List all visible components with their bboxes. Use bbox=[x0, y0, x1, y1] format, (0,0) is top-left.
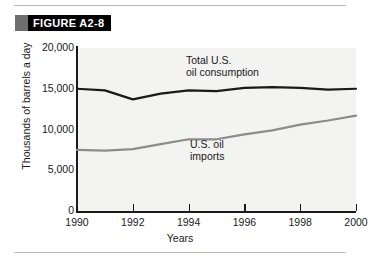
figure-number-label: FIGURE A2-8 bbox=[28, 15, 111, 31]
annotation-total-us-oil-consumption: Total U.S. oil consumption bbox=[186, 54, 259, 78]
series-lines bbox=[0, 38, 360, 238]
annotation-consumption-line1: Total U.S. bbox=[186, 54, 259, 66]
annotation-us-oil-imports: U.S. oil imports bbox=[190, 138, 224, 162]
annotation-imports-line2: imports bbox=[190, 150, 224, 162]
annotation-consumption-line2: oil consumption bbox=[186, 66, 259, 78]
bottom-divider-rule bbox=[14, 252, 346, 253]
figure-number-banner: FIGURE A2-8 bbox=[15, 15, 111, 31]
annotation-imports-line1: U.S. oil bbox=[190, 138, 224, 150]
banner-swatch bbox=[15, 15, 28, 31]
chart-plot-region: 05,00010,00015,00020,000 199019921994199… bbox=[0, 38, 360, 238]
line-total-us-oil-consumption bbox=[77, 87, 356, 99]
top-divider-rule bbox=[14, 5, 346, 6]
